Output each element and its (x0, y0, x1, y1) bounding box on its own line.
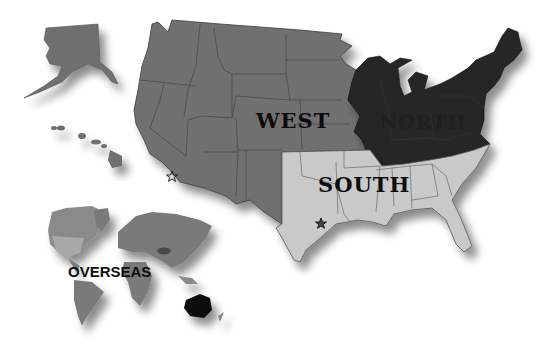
regions-map: West North South OVERSEAS (0, 0, 546, 348)
region-label-overseas: OVERSEAS (68, 263, 151, 280)
region-label-west: West (256, 108, 330, 133)
region-label-south: South (318, 172, 410, 197)
alaska-inset (24, 24, 118, 98)
hawaii-inset (51, 126, 122, 169)
map-graphic (0, 0, 546, 348)
region-label-north: North (380, 111, 466, 133)
region-north-shape[interactable] (348, 28, 522, 166)
